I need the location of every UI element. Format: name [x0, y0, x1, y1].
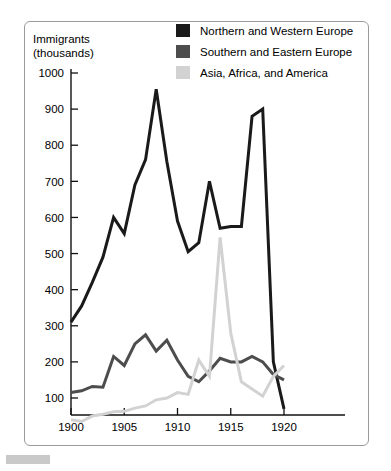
- axis-title-line: Immigrants: [33, 33, 90, 45]
- chart-figure: 1002003004005006007008009001000190019051…: [0, 0, 391, 471]
- series-layer: [71, 89, 284, 421]
- x-tick-label: 1910: [165, 421, 191, 433]
- y-tick-label: 700: [45, 176, 64, 188]
- y-tick-label: 300: [45, 320, 64, 332]
- legend-swatch: [176, 66, 190, 79]
- x-tick-label: 1920: [271, 421, 297, 433]
- line-chart: 1002003004005006007008009001000190019051…: [0, 0, 391, 471]
- legend-label: Asia, Africa, and America: [200, 67, 328, 79]
- legend-label: Northern and Western Europe: [200, 25, 353, 37]
- x-tick-label: 1900: [58, 421, 84, 433]
- legend-label: Southern and Eastern Europe: [200, 46, 352, 58]
- y-tick-label: 900: [45, 103, 64, 115]
- y-tick-label: 400: [45, 284, 64, 296]
- y-tick-label: 600: [45, 212, 64, 224]
- y-tick-label: 1000: [38, 67, 64, 79]
- corner-mark: [6, 455, 50, 464]
- legend-swatch: [176, 45, 190, 58]
- legend-swatch: [176, 24, 190, 37]
- x-tick-label: 1915: [218, 421, 244, 433]
- series-line: [71, 335, 284, 393]
- y-tick-label: 200: [45, 356, 64, 368]
- labels-layer: 1002003004005006007008009001000190019051…: [33, 24, 353, 433]
- y-tick-label: 100: [45, 392, 64, 404]
- y-tick-label: 500: [45, 248, 64, 260]
- x-tick-label: 1905: [111, 421, 137, 433]
- series-line: [71, 237, 284, 421]
- axis-title-line: (thousands): [33, 47, 94, 59]
- y-tick-label: 800: [45, 139, 64, 151]
